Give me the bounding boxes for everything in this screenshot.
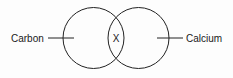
label-left-carbon: Carbon (11, 33, 44, 44)
label-right-calcium: Calcium (186, 33, 222, 44)
venn-diagram-screenshot: Carbon Calcium X (0, 0, 233, 78)
label-intersection-x: X (113, 33, 120, 44)
venn-diagram-canvas: Carbon Calcium X (0, 0, 233, 78)
